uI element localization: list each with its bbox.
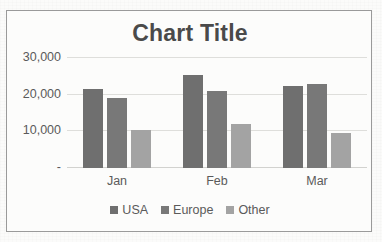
legend-swatch-icon xyxy=(110,206,118,214)
y-axis-tick-label: 20,000 xyxy=(7,87,61,101)
y-axis-tick-label: 30,000 xyxy=(7,50,61,64)
bar-group xyxy=(67,58,167,168)
bar-group xyxy=(267,58,367,168)
x-axis-tick-label: Mar xyxy=(267,174,367,188)
plot-area xyxy=(67,58,367,168)
legend-swatch-icon xyxy=(161,206,169,214)
legend-item-label: USA xyxy=(122,203,148,217)
y-axis-tick-label: 10,000 xyxy=(7,123,61,137)
bar-group xyxy=(167,58,267,168)
legend-item[interactable]: Europe xyxy=(161,203,213,217)
y-axis-tick-label: - xyxy=(7,160,61,174)
legend-swatch-icon xyxy=(226,206,234,214)
legend-item[interactable]: Other xyxy=(226,203,269,217)
x-axis-tick-label: Jan xyxy=(67,174,167,188)
bar[interactable] xyxy=(131,130,151,169)
chart-legend[interactable]: USAEuropeOther xyxy=(7,203,373,217)
bar[interactable] xyxy=(283,86,303,169)
bar[interactable] xyxy=(183,75,203,169)
bar[interactable] xyxy=(207,91,227,168)
chart-container[interactable]: Chart Title 30,00020,00010,000- JanFebMa… xyxy=(6,10,372,232)
bar[interactable] xyxy=(307,84,327,168)
chart-title[interactable]: Chart Title xyxy=(7,20,373,46)
bar[interactable] xyxy=(107,98,127,168)
x-axis-tick-label: Feb xyxy=(167,174,267,188)
screenshot-canvas: Chart Title 30,00020,00010,000- JanFebMa… xyxy=(0,0,382,242)
legend-item-label: Other xyxy=(238,203,269,217)
bar[interactable] xyxy=(83,89,103,168)
bar[interactable] xyxy=(231,124,251,168)
legend-item-label: Europe xyxy=(173,203,213,217)
bar[interactable] xyxy=(331,133,351,168)
legend-item[interactable]: USA xyxy=(110,203,148,217)
